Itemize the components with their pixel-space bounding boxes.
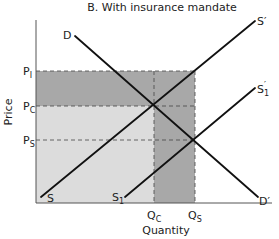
label-d-prime: D′ — [259, 195, 270, 208]
tick-q-s: QS — [188, 209, 202, 224]
dark-shaded-band — [36, 71, 195, 106]
tick-p-s: PS — [23, 134, 35, 149]
label-s: S — [47, 192, 54, 205]
chart-title: B. With insurance mandate — [87, 1, 237, 14]
chart-canvas: B. With insurance mandate D D′ S′ S S1 S… — [0, 0, 279, 239]
tick-p-c: PC — [23, 100, 36, 115]
y-axis-title: Price — [2, 98, 15, 125]
x-axis-title: Quantity — [142, 224, 190, 237]
label-s-prime: S′ — [257, 15, 267, 28]
label-d: D — [63, 29, 71, 42]
tick-q-c: QC — [147, 209, 162, 224]
tick-p-i: PI — [23, 65, 32, 80]
label-s1-prime: S1′ — [257, 80, 269, 98]
